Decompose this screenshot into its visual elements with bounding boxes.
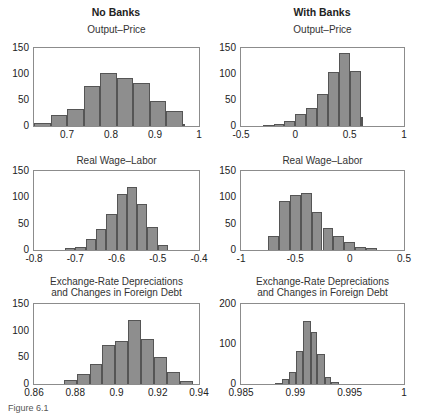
- histogram-bar: [301, 193, 312, 250]
- plot-area: [240, 47, 405, 127]
- histogram-bar: [147, 227, 157, 250]
- plot-area: [33, 303, 200, 385]
- histogram-bar: [150, 101, 167, 126]
- column-header-with-banks: With Banks: [222, 6, 422, 18]
- x-tick-label: -0.8: [14, 254, 54, 264]
- x-tick-label: 1: [179, 130, 219, 140]
- x-tick-label: 0.5: [330, 130, 370, 140]
- x-tick-label: -0.5: [221, 130, 261, 140]
- histogram-bar: [275, 383, 283, 384]
- y-tick-label: 50: [3, 219, 29, 229]
- histogram-bar: [274, 124, 285, 126]
- plot-area: [33, 170, 200, 251]
- column-header-no-banks: No Banks: [16, 6, 216, 18]
- histogram-bar: [115, 341, 128, 384]
- histogram-bar: [289, 372, 297, 384]
- y-tick-label: 100: [210, 69, 236, 79]
- histogram-bar: [333, 236, 344, 250]
- plot-area: [240, 303, 405, 385]
- histogram-bar: [166, 111, 183, 126]
- x-tick-label: -0.7: [55, 254, 95, 264]
- histogram-bar: [96, 229, 106, 250]
- histogram-bar: [344, 242, 355, 250]
- panel-title: Real Wage–Labor: [33, 155, 200, 166]
- y-tick-label: 150: [210, 166, 236, 176]
- x-tick-label: 0.94: [179, 388, 219, 398]
- x-tick-label: 0.8: [91, 130, 131, 140]
- histogram-bar: [133, 83, 150, 126]
- histogram-bar: [158, 245, 168, 250]
- histogram-bar: [75, 247, 85, 250]
- y-tick-label: 150: [3, 43, 29, 53]
- histogram-bar: [34, 123, 51, 126]
- histogram-bar: [339, 53, 350, 126]
- x-tick-label: 0.9: [97, 388, 137, 398]
- x-tick-label: -0.6: [97, 254, 137, 264]
- x-tick-label: -0.4: [179, 254, 219, 264]
- histogram-bar: [77, 374, 90, 384]
- panel-title: Exchange-Rate Depreciationsand Changes i…: [33, 276, 200, 298]
- y-tick-label: 100: [210, 192, 236, 202]
- plot-area: [33, 47, 200, 127]
- y-tick-label: 50: [3, 352, 29, 362]
- histogram-bar: [282, 379, 289, 384]
- histogram-bar: [117, 78, 134, 126]
- x-tick-label: 1: [384, 130, 423, 140]
- histogram-bar: [137, 204, 147, 250]
- histogram-bar: [355, 247, 366, 250]
- histogram-bar: [303, 321, 311, 384]
- histogram-bar: [100, 73, 117, 126]
- y-tick-label: 100: [3, 69, 29, 79]
- histogram-bar: [312, 212, 323, 250]
- x-tick-label: 0.985: [221, 388, 261, 398]
- histogram-bar: [317, 94, 328, 126]
- x-tick-label: 0.99: [275, 388, 315, 398]
- x-tick-label: -0.5: [138, 254, 178, 264]
- histogram-bar: [296, 351, 303, 384]
- figure-caption: Figure 6.1: [8, 403, 49, 413]
- x-tick-label: 0.86: [14, 388, 54, 398]
- histogram-bar: [350, 71, 361, 126]
- histogram-bar: [127, 187, 137, 250]
- histogram-bar: [183, 124, 185, 126]
- histogram-bar: [284, 121, 295, 126]
- histogram-bar: [102, 345, 115, 384]
- histogram-bar: [141, 339, 154, 384]
- x-tick-label: 0: [330, 254, 370, 264]
- histogram-bar: [65, 248, 75, 250]
- histogram-bar: [84, 86, 101, 126]
- x-tick-label: 0.5: [384, 254, 423, 264]
- histogram-bar: [117, 194, 127, 250]
- y-tick-label: 150: [3, 166, 29, 176]
- y-tick-label: 50: [3, 95, 29, 105]
- y-tick-label: 50: [210, 219, 236, 229]
- y-tick-label: 100: [3, 326, 29, 336]
- x-tick-label: 0.88: [55, 388, 95, 398]
- histogram-bar: [317, 354, 325, 384]
- x-tick-label: 0.92: [138, 388, 178, 398]
- histogram-bar: [311, 332, 318, 384]
- x-tick-label: 0.7: [47, 130, 87, 140]
- y-tick-label: 50: [210, 95, 236, 105]
- histogram-bar: [279, 201, 290, 250]
- histogram-bar: [263, 125, 274, 126]
- histogram-bar: [67, 109, 84, 126]
- histogram-bar: [268, 236, 279, 250]
- x-tick-label: -0.5: [275, 254, 315, 264]
- x-tick-label: 1: [384, 388, 423, 398]
- histogram-bar: [180, 381, 193, 384]
- panel-title: Exchange-Rate Depreciationsand Changes i…: [240, 276, 405, 298]
- histogram-bar: [90, 364, 103, 384]
- x-tick-label: 0.9: [135, 130, 175, 140]
- histogram-bar: [306, 108, 317, 126]
- x-tick-label: -1: [221, 254, 261, 264]
- histogram-bar: [295, 114, 306, 126]
- panel-title: Output–Price: [33, 24, 200, 35]
- panel-title: Real Wage–Labor: [240, 155, 405, 166]
- histogram-bar: [64, 380, 77, 384]
- x-tick-label: 0.995: [330, 388, 370, 398]
- histogram-bar: [154, 357, 167, 384]
- histogram-bar: [167, 372, 180, 384]
- histogram-bar: [331, 382, 339, 384]
- histogram-bar: [128, 320, 141, 384]
